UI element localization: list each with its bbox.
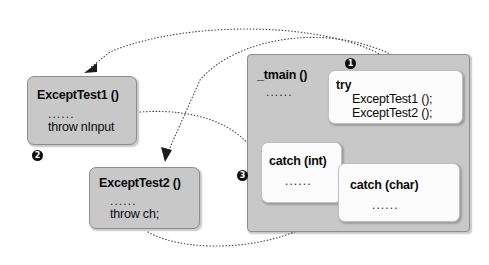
excepttest1-box [27, 76, 137, 145]
excepttest1-throw-statement: throw nInput [48, 120, 114, 134]
excepttest1-ellipsis: ...... [48, 108, 75, 120]
try-call-excepttest1: ExceptTest1 (); [352, 92, 432, 106]
diagram-canvas: ExceptTest1 () ...... throw nInput 2 Exc… [0, 0, 489, 265]
catch-int-label: catch (int) [269, 154, 327, 168]
arrow-excepttest1-to-catchint [140, 111, 253, 150]
badge-two: 2 [32, 150, 43, 161]
try-keyword: try [336, 78, 351, 92]
excepttest1-title: ExceptTest1 () [37, 88, 119, 102]
catch-int-box [261, 142, 342, 203]
tmain-ellipsis: ...... [266, 86, 293, 98]
excepttest2-ellipsis: ...... [110, 195, 137, 207]
arrowhead-to-excepttest1 [84, 63, 97, 73]
badge-three: 3 [237, 170, 248, 181]
arrowhead-to-excepttest2 [161, 147, 172, 162]
badge-one: 1 [345, 58, 356, 69]
tmain-title: _tmain () [257, 68, 307, 82]
catch-char-box [338, 163, 460, 222]
catch-char-ellipsis: ...... [372, 199, 399, 211]
excepttest2-title: ExceptTest2 () [99, 176, 181, 190]
catch-char-label: catch (char) [350, 178, 418, 192]
excepttest2-throw-statement: throw ch; [110, 207, 159, 221]
catch-int-ellipsis: ...... [285, 175, 312, 187]
try-call-excepttest2: ExceptTest2 (); [352, 106, 432, 120]
